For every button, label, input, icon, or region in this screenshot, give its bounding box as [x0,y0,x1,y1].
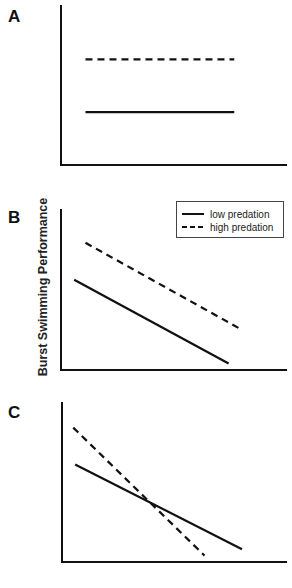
panel-label-c: C [8,403,20,422]
series-line-high-predation [73,428,204,556]
panel-label-b: B [8,208,20,227]
panel-label-a: A [8,7,20,26]
panel-c [61,402,287,563]
y-axis-label: Burst Swimming Performance [36,198,50,377]
legend-label-high: high predation [210,222,273,233]
series-line-high-predation [85,243,241,330]
legend-label-low: low predation [210,209,269,220]
legend: low predation high predation [177,202,284,238]
series-line-low-predation [75,464,242,549]
panel-a [60,5,287,166]
series-line-low-predation [74,280,228,364]
figure: A B C Burst Swimming Performance low pre… [0,0,292,588]
